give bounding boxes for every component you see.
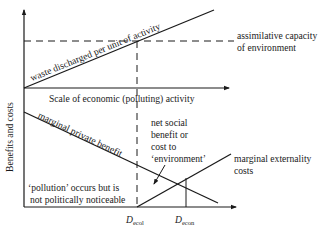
assimilative-capacity-label-1: assimilative capacity (237, 30, 317, 41)
waste-discharge-line (24, 10, 214, 88)
pollution-note-2: not politically noticeable (30, 194, 125, 205)
net-social-label-4: ‘environment’ (151, 153, 206, 164)
marginal-private-benefit-label: marginal private benefit (36, 109, 124, 158)
net-social-label-1: net social (151, 117, 188, 128)
d-ecol-label: Decol (125, 214, 144, 226)
net-social-label-2: benefit or (151, 129, 189, 140)
waste-line-label: waste discharged per unit of activity (28, 20, 161, 83)
assimilative-capacity-label-2: of environment (237, 42, 296, 53)
pollution-economics-diagram: Benefits and costs Scale of economic (po… (0, 0, 331, 227)
pollution-note-1: ‘pollution’ occurs but is (28, 182, 119, 193)
upper-x-axis-label: Scale of economic (polluting) activity (49, 93, 195, 105)
d-econ-label: Decon (174, 214, 195, 226)
marginal-externality-label-2: costs (234, 165, 253, 176)
net-social-pointer-arrow (154, 165, 165, 184)
net-social-label-3: cost to (151, 141, 177, 152)
marginal-externality-label-1: marginal externality (234, 153, 312, 164)
y-axis-label: Benefits and costs (4, 102, 15, 172)
